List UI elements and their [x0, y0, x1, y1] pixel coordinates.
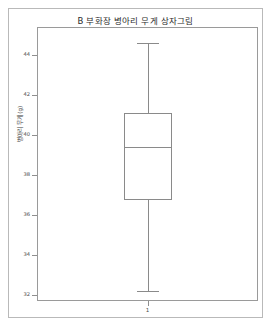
y-axis-tick	[32, 255, 37, 256]
y-axis-tick	[32, 175, 37, 176]
boxplot-lower-whisker	[148, 200, 149, 291]
y-axis-tick-label: 44	[0, 52, 30, 57]
y-axis-tick	[32, 295, 37, 296]
boxplot-upper-cap	[137, 43, 159, 44]
y-axis-tick-label: 38	[0, 172, 30, 177]
boxplot-median-line	[124, 147, 172, 148]
boxplot-lower-cap	[137, 291, 159, 292]
y-axis-tick-label: 34	[0, 252, 30, 257]
y-axis-tick-label: 42	[0, 92, 30, 97]
boxplot-box	[124, 113, 172, 200]
x-axis-tick	[148, 301, 149, 306]
boxplot-figure: B 부화장 병아리 무게 상자그림 44424038363432 병아리 무게 …	[8, 8, 263, 318]
y-axis-title: 병아리 무게 (g)	[16, 94, 24, 154]
chart-title: B 부화장 병아리 무게 상자그림	[8, 14, 263, 26]
y-axis-tick-label: 40	[0, 132, 30, 137]
y-axis-tick-label: 36	[0, 212, 30, 217]
y-axis-tick	[32, 215, 37, 216]
x-axis-tick-label: 1	[128, 307, 168, 313]
y-axis-tick	[32, 55, 37, 56]
y-axis-tick-label: 32	[0, 292, 30, 297]
chart-page: B 부화장 병아리 무게 상자그림 44424038363432 병아리 무게 …	[0, 0, 272, 327]
y-axis-tick	[32, 135, 37, 136]
boxplot-upper-whisker	[148, 43, 149, 113]
y-axis-tick	[32, 95, 37, 96]
